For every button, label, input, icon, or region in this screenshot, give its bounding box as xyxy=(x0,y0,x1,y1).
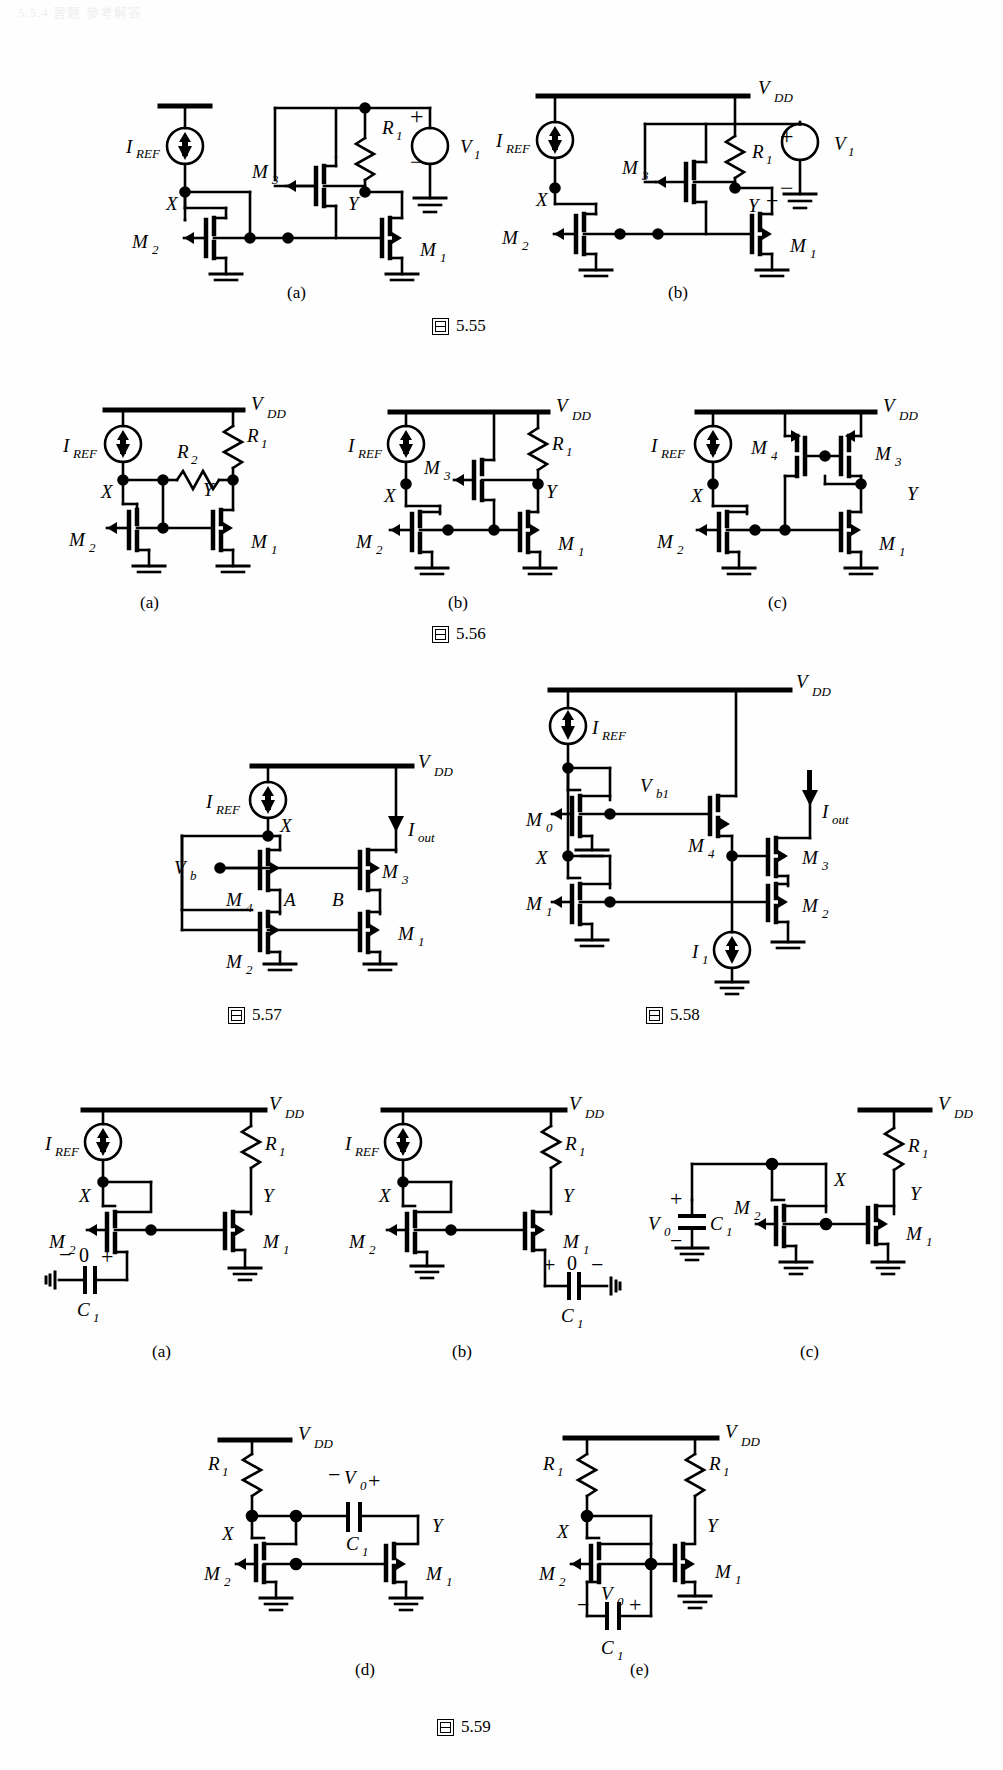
label-node-x-a: X xyxy=(165,193,179,214)
svg-text:1: 1 xyxy=(440,250,447,265)
svg-text:I: I xyxy=(650,435,659,456)
svg-text:1: 1 xyxy=(93,1310,100,1325)
svg-text:I: I xyxy=(821,801,830,822)
svg-text:M: M xyxy=(525,809,543,830)
svg-text:M: M xyxy=(714,1561,732,1582)
figure-5-59-panel-a: VDD IREF X R1 Y M2 M1 − 0 + C1 xyxy=(45,1090,345,1320)
svg-text:M: M xyxy=(557,533,575,554)
svg-text:X: X xyxy=(221,1523,235,1544)
cjk-tu-glyph xyxy=(432,318,449,335)
svg-text:I: I xyxy=(407,819,416,840)
svg-text:M: M xyxy=(225,889,243,910)
panel-label-5-55-b: (b) xyxy=(668,283,688,303)
figure-caption-5-57: 5.57 xyxy=(228,1005,282,1025)
label-m1-a: M xyxy=(419,239,437,260)
svg-text:A: A xyxy=(282,889,296,910)
svg-text:M: M xyxy=(501,227,519,248)
svg-text:1: 1 xyxy=(557,1464,564,1479)
page-header: 5.5.4 習題 參考解答 xyxy=(18,2,142,21)
label-vdd-b: V xyxy=(758,77,772,98)
label-plus-a: + xyxy=(410,103,424,129)
figure-5-59-panel-c: VDD R1 Y X V0 + − C1 M2 M1 xyxy=(648,1090,968,1320)
svg-text:V: V xyxy=(640,775,654,796)
svg-text:−: − xyxy=(59,1242,71,1267)
svg-text:X: X xyxy=(690,485,704,506)
svg-text:+: + xyxy=(629,1592,641,1617)
figure-5-58: VDD IREF M0 Vb1 X M1 M4 Iout M3 M2 I1 xyxy=(520,660,920,980)
svg-text:1: 1 xyxy=(726,1224,733,1239)
figure-caption-5-55: 5.55 xyxy=(432,316,486,336)
svg-text:R: R xyxy=(564,1133,577,1154)
figure-number-5-57: 5.57 xyxy=(252,1005,282,1025)
svg-text:REF: REF xyxy=(135,146,161,161)
figure-5-56-panel-c: VDD IREF X M4 M3 Y M2 M1 xyxy=(645,398,965,598)
svg-text:I: I xyxy=(691,941,700,962)
svg-text:1: 1 xyxy=(546,904,553,919)
svg-text:M: M xyxy=(68,529,86,550)
svg-text:1: 1 xyxy=(922,1146,929,1161)
svg-text:1: 1 xyxy=(583,1242,590,1257)
svg-text:V: V xyxy=(269,1093,283,1114)
svg-text:M: M xyxy=(801,895,819,916)
svg-text:4: 4 xyxy=(708,846,715,861)
svg-text:DD: DD xyxy=(433,764,453,779)
svg-text:−: − xyxy=(780,175,794,201)
svg-text:2: 2 xyxy=(152,242,159,257)
svg-text:I: I xyxy=(495,130,504,151)
svg-text:B: B xyxy=(332,889,344,910)
svg-text:2: 2 xyxy=(89,540,96,555)
panel-label-5-55-a: (a) xyxy=(287,283,306,303)
svg-text:0: 0 xyxy=(360,1478,367,1493)
svg-text:M: M xyxy=(874,443,892,464)
svg-text:1: 1 xyxy=(848,144,855,159)
svg-text:1: 1 xyxy=(279,1144,286,1159)
svg-text:+: + xyxy=(368,1468,380,1493)
svg-text:DD: DD xyxy=(773,90,793,105)
svg-text:2: 2 xyxy=(754,1208,761,1223)
figure-caption-5-59: 5.59 xyxy=(437,1717,491,1737)
figure-5-57: VDD IREF X Iout Vb M4 A B M3 M2 M1 xyxy=(160,740,500,970)
figure-5-55-panel-a: I REF X R 1 V 1 + − M 3 Y M 2 M 1 xyxy=(120,70,520,280)
svg-text:1: 1 xyxy=(577,1316,584,1331)
svg-text:M: M xyxy=(878,533,896,554)
svg-text:0: 0 xyxy=(546,820,553,835)
figure-number-5-56: 5.56 xyxy=(456,624,486,644)
svg-text:3: 3 xyxy=(894,454,902,469)
svg-text:DD: DD xyxy=(584,1106,604,1121)
svg-text:2: 2 xyxy=(677,542,684,557)
svg-text:DD: DD xyxy=(740,1434,760,1449)
svg-text:M: M xyxy=(423,457,441,478)
svg-text:DD: DD xyxy=(266,406,286,421)
panel-label-5-59-e: (e) xyxy=(630,1660,649,1680)
svg-text:V: V xyxy=(834,133,848,154)
figure-number-5-55: 5.55 xyxy=(456,316,486,336)
svg-text:+: + xyxy=(101,1244,113,1269)
svg-text:Y: Y xyxy=(263,1185,276,1206)
svg-text:3: 3 xyxy=(641,168,649,183)
svg-text:V: V xyxy=(725,1421,739,1442)
label-r1-a: R xyxy=(381,117,394,138)
svg-text:1: 1 xyxy=(566,444,573,459)
svg-text:M: M xyxy=(621,157,639,178)
svg-text:3: 3 xyxy=(271,172,279,187)
panel-label-5-59-b: (b) xyxy=(452,1342,472,1362)
svg-text:M: M xyxy=(355,531,373,552)
svg-text:X: X xyxy=(279,815,293,836)
svg-text:R: R xyxy=(176,441,189,462)
svg-text:1: 1 xyxy=(261,436,268,451)
svg-text:1: 1 xyxy=(222,1464,229,1479)
svg-text:2: 2 xyxy=(191,452,198,467)
svg-text:−: − xyxy=(670,1228,682,1253)
svg-text:−: − xyxy=(766,188,778,213)
svg-text:3: 3 xyxy=(821,858,829,873)
svg-text:1: 1 xyxy=(446,1574,453,1589)
svg-text:Y: Y xyxy=(432,1515,445,1536)
panel-label-5-59-a: (a) xyxy=(152,1342,171,1362)
svg-text:V: V xyxy=(251,393,265,414)
svg-text:DD: DD xyxy=(898,408,918,423)
textbook-page: 5.5.4 習題 參考解答 xyxy=(0,0,1003,1770)
svg-text:4: 4 xyxy=(246,900,253,915)
svg-text:M: M xyxy=(733,1197,751,1218)
svg-text:b1: b1 xyxy=(656,786,669,801)
svg-text:Y: Y xyxy=(907,483,920,504)
